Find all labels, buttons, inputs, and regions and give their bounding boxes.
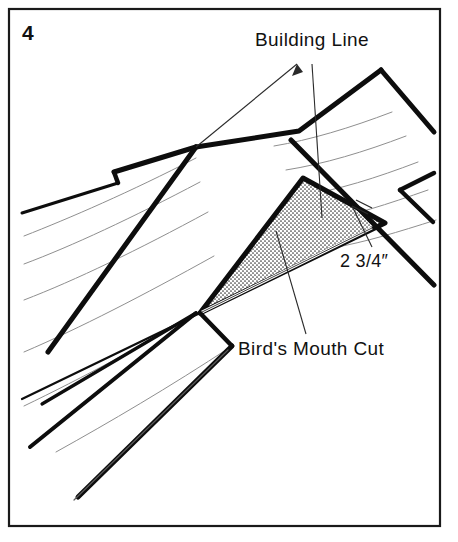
label-building-line: Building Line	[255, 30, 369, 49]
figure-page: 4 Building Line 2 3/4″ Bird's Mouth Cut	[0, 0, 458, 542]
label-dimension-2-3-4-inch: 2 3/4″	[340, 252, 388, 270]
figure-number: 4	[22, 22, 34, 43]
figure-drawing	[0, 0, 458, 542]
label-birds-mouth-cut: Bird's Mouth Cut	[238, 339, 384, 358]
